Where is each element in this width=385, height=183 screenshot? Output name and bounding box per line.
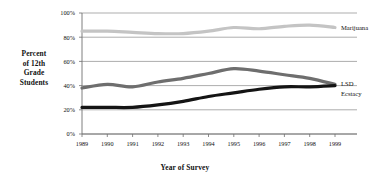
y-tick-label: 20%: [49, 106, 75, 113]
y-tick-label: 60%: [49, 58, 75, 65]
y-tick-label: 100%: [49, 9, 75, 16]
x-tick-label: 1991: [120, 140, 146, 147]
line-chart: Percent of 12th Grade Students 100%80%60…: [0, 0, 385, 183]
y-tick-label: 80%: [49, 34, 75, 41]
x-tick-label: 1995: [221, 140, 247, 147]
series-label-ecstacy: Ecstacy: [341, 90, 362, 98]
x-tick-label: 1994: [196, 140, 222, 147]
x-tick-label: 1997: [271, 140, 297, 147]
x-tick-label: 1993: [170, 140, 196, 147]
x-tick-label: 1989: [69, 140, 95, 147]
series-label-lsd: LSD: [341, 80, 353, 88]
plot-area: [0, 0, 385, 183]
y-tick-label: 0%: [49, 130, 75, 137]
x-axis-title: Year of Survey: [105, 163, 265, 172]
x-tick-label: 1998: [297, 140, 323, 147]
x-tick-label: 1992: [145, 140, 171, 147]
series-line-ecstacy: [82, 86, 335, 108]
x-tick-label: 1999: [322, 140, 348, 147]
x-tick-label: 1990: [94, 140, 120, 147]
series-label-marijuana: Marijuana: [341, 24, 368, 32]
series-line-marijuana: [82, 25, 335, 34]
x-tick-label: 1996: [246, 140, 272, 147]
series-line-lsd: [82, 69, 335, 88]
y-tick-label: 40%: [49, 82, 75, 89]
